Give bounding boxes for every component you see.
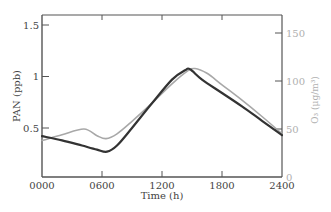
left-tick-label: 1.5 xyxy=(23,20,39,31)
left-tick-label: 1 xyxy=(33,71,39,82)
left-tick-label: 0.5 xyxy=(23,123,39,134)
o3-line xyxy=(42,68,282,140)
right-tick-label: 0 xyxy=(286,172,292,183)
right-tick-label: 150 xyxy=(286,28,305,39)
chart: 00000600120018002400 0.511.5 050100150 T… xyxy=(0,0,331,212)
series-layer xyxy=(42,68,282,151)
pan-line xyxy=(42,68,282,151)
x-tick-label: 0000 xyxy=(29,180,54,191)
right-tick-label: 50 xyxy=(286,124,299,135)
right-axis-ticks: 050100150 xyxy=(275,28,305,183)
plot-frame xyxy=(42,15,282,177)
x-axis-title: Time (h) xyxy=(141,190,184,201)
x-tick-label: 1800 xyxy=(209,180,234,191)
x-tick-label: 0600 xyxy=(89,180,114,191)
right-axis-title: O₃ (μg/m³) xyxy=(310,76,320,124)
right-tick-label: 100 xyxy=(286,76,305,87)
left-axis-title: PAN (ppb) xyxy=(11,70,22,122)
left-axis-ticks: 0.511.5 xyxy=(23,20,49,134)
x-axis-ticks: 00000600120018002400 xyxy=(29,15,294,191)
